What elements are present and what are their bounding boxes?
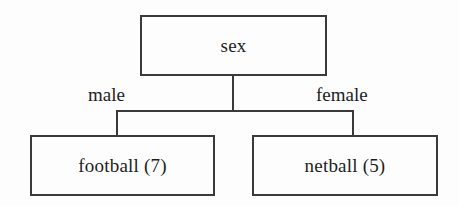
branch-label-female: female — [316, 85, 368, 104]
tree-node-root-label: sex — [221, 36, 247, 55]
connector-drop-left — [116, 110, 118, 136]
tree-node-leaf-football: football (7) — [30, 135, 215, 196]
tree-node-leaf-football-label: football (7) — [78, 156, 166, 175]
connector-root-stem — [232, 75, 234, 112]
branch-label-male: male — [88, 85, 125, 104]
connector-horizontal-bar — [116, 110, 354, 112]
tree-node-leaf-netball: netball (5) — [252, 135, 438, 196]
decision-tree-diagram: sex male female football (7) netball (5) — [0, 0, 459, 206]
tree-node-root: sex — [140, 15, 327, 76]
connector-drop-right — [352, 110, 354, 136]
tree-node-leaf-netball-label: netball (5) — [305, 156, 386, 175]
